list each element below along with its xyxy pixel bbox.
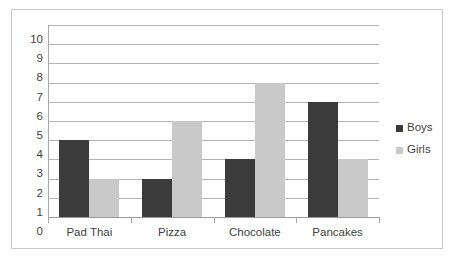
legend-label: Boys xyxy=(407,122,433,134)
y-axis-tick-label: 2 xyxy=(15,188,43,200)
legend-label: Girls xyxy=(407,144,431,156)
gridline xyxy=(48,83,379,84)
gridline xyxy=(48,44,379,45)
y-axis-tick-label: 10 xyxy=(15,34,43,46)
y-axis-tick-label: 5 xyxy=(15,130,43,142)
bar-boys-pizza xyxy=(142,179,172,217)
x-axis-category-label: Chocolate xyxy=(214,222,297,242)
bar-girls-pad-thai xyxy=(89,179,119,217)
bar-girls-pancakes xyxy=(338,159,368,217)
x-axis-category-label: Pad Thai xyxy=(48,222,131,242)
gridline xyxy=(48,25,379,26)
bar-boys-pancakes xyxy=(308,102,338,217)
gridline xyxy=(48,63,379,64)
chart-legend: BoysGirls xyxy=(396,117,442,161)
y-axis-tick-label: 4 xyxy=(15,149,43,161)
y-axis-tick-label: 6 xyxy=(15,111,43,123)
plot-area xyxy=(48,25,379,217)
x-axis-category-labels: Pad ThaiPizzaChocolatePancakes xyxy=(48,222,379,244)
legend-item-boys[interactable]: Boys xyxy=(396,117,442,139)
bar-boys-pad-thai xyxy=(59,140,89,217)
y-axis-tick-label: 7 xyxy=(15,92,43,104)
y-axis-tick-label: 0 xyxy=(15,226,43,238)
legend-swatch-icon xyxy=(396,125,403,132)
x-axis-tick xyxy=(379,217,380,223)
x-axis-category-label: Pizza xyxy=(131,222,214,242)
bar-girls-chocolate xyxy=(255,83,285,217)
y-axis-tick-labels: 109876543210 xyxy=(12,25,43,217)
bar-boys-chocolate xyxy=(225,159,255,217)
y-axis-line xyxy=(48,25,49,217)
y-axis-tick-label: 9 xyxy=(15,53,43,65)
bar-girls-pizza xyxy=(172,121,202,217)
x-axis-category-label: Pancakes xyxy=(296,222,379,242)
y-axis-tick-label: 3 xyxy=(15,169,43,181)
y-axis-tick-label: 8 xyxy=(15,73,43,85)
legend-swatch-icon xyxy=(396,147,403,154)
y-axis-tick-label: 1 xyxy=(15,207,43,219)
legend-item-girls[interactable]: Girls xyxy=(396,139,442,161)
chart-frame: 109876543210 Pad ThaiPizzaChocolatePanca… xyxy=(11,9,443,249)
